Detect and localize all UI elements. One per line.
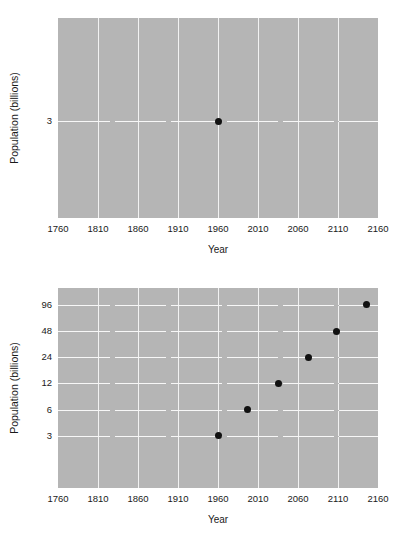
y-tick-label: 48 [41,326,52,336]
y-tick-label: 3 [47,116,52,126]
horizontal-gridline [58,331,378,332]
data-point [333,328,340,335]
x-tick-label: 1860 [127,494,148,504]
y-axis-ticks-bottom: 3612244896 [0,270,52,537]
x-axis-title-top: Year [58,244,378,255]
plot-area-top [58,18,378,218]
vertical-gridline [338,18,339,218]
data-point [275,380,282,387]
vertical-gridline [138,18,139,218]
x-axis-ticks-top: 176018101860191019602010206021102160 [58,224,378,238]
y-tick-label: 24 [41,352,52,362]
x-tick-label: 1810 [87,224,108,234]
x-tick-label: 2160 [367,494,388,504]
plot-area-bottom [58,288,378,488]
vertical-gridline [298,18,299,218]
horizontal-gridline [58,305,378,306]
x-tick-label: 1760 [47,494,68,504]
data-point [215,118,222,125]
x-axis-ticks-bottom: 176018101860191019602010206021102160 [58,494,378,508]
x-tick-label: 1960 [207,494,228,504]
x-tick-label: 2010 [247,224,268,234]
x-tick-label: 2010 [247,494,268,504]
x-tick-label: 2110 [328,494,348,504]
x-tick-label: 1760 [47,224,68,234]
data-point [305,354,312,361]
x-tick-label: 1910 [167,224,188,234]
vertical-gridline [178,288,179,488]
y-tick-label: 6 [47,405,52,415]
vertical-gridline [258,288,259,488]
x-tick-label: 2060 [287,494,308,504]
data-point [244,406,251,413]
data-point [215,432,222,439]
chart-top-linear-scale: Population (billions) 3 1760181018601910… [0,0,402,270]
horizontal-gridline [58,357,378,358]
y-axis-ticks-top: 3 [0,0,52,270]
y-tick-label: 3 [47,431,52,441]
vertical-gridline [338,288,339,488]
x-tick-label: 1960 [207,224,228,234]
vertical-gridline [138,288,139,488]
x-tick-label: 2110 [328,224,348,234]
y-tick-label: 12 [41,379,52,389]
vertical-gridline [298,288,299,488]
x-tick-label: 1860 [127,224,148,234]
vertical-gridline [258,18,259,218]
x-tick-label: 1910 [167,494,188,504]
horizontal-gridline [58,410,378,411]
x-tick-label: 1810 [87,494,108,504]
data-point [363,301,370,308]
vertical-gridline [178,18,179,218]
chart-bottom-log-scale: Population (billions) 3612244896 1760181… [0,270,402,537]
x-tick-label: 2160 [367,224,388,234]
vertical-gridline [98,18,99,218]
vertical-gridline [98,288,99,488]
vertical-gridline [218,288,219,488]
x-tick-label: 2060 [287,224,308,234]
horizontal-gridline [58,383,378,384]
x-axis-title-bottom: Year [58,514,378,525]
y-tick-label: 96 [41,300,52,310]
